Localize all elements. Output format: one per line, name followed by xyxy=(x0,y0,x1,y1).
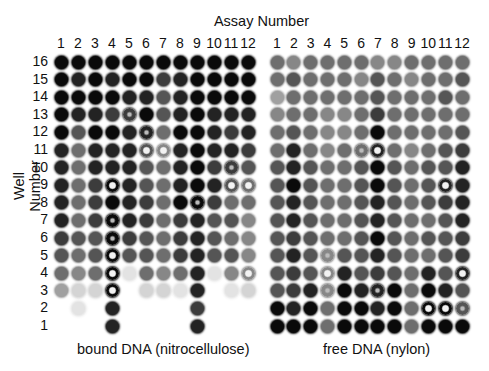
blot-spot xyxy=(405,214,418,227)
blot-spot xyxy=(456,214,469,227)
blot-spot xyxy=(371,161,384,174)
blot-spot xyxy=(287,249,300,262)
blot-spot xyxy=(405,161,418,174)
blot-spot xyxy=(271,249,284,262)
blot-spot xyxy=(422,161,435,174)
blot-spot xyxy=(271,214,284,227)
blot-spot xyxy=(439,161,452,174)
blot-spot xyxy=(388,91,401,104)
blot-spot xyxy=(287,161,300,174)
blot-spot xyxy=(321,56,334,69)
blot-spot xyxy=(271,232,284,245)
blot-spot xyxy=(422,284,435,297)
dot-blot-panel-free xyxy=(0,0,489,371)
blot-spot xyxy=(355,144,368,157)
blot-spot xyxy=(456,73,469,86)
blot-spot xyxy=(355,161,368,174)
blot-spot xyxy=(355,91,368,104)
blot-spot xyxy=(371,91,384,104)
blot-spot xyxy=(405,267,418,280)
blot-spot xyxy=(405,73,418,86)
blot-spot xyxy=(287,126,300,139)
blot-spot xyxy=(422,179,435,192)
blot-spot xyxy=(388,302,401,315)
blot-spot xyxy=(355,267,368,280)
blot-spot xyxy=(388,56,401,69)
blot-spot xyxy=(287,73,300,86)
blot-spot xyxy=(456,196,469,209)
blot-spot xyxy=(388,144,401,157)
blot-spot xyxy=(271,196,284,209)
blot-spot xyxy=(338,126,351,139)
blot-spot xyxy=(321,91,334,104)
blot-spot xyxy=(371,196,384,209)
blot-spot xyxy=(321,196,334,209)
blot-spot xyxy=(388,249,401,262)
blot-spot xyxy=(287,144,300,157)
blot-spot xyxy=(304,108,317,121)
blot-spot xyxy=(456,232,469,245)
blot-spot xyxy=(422,267,435,280)
blot-spot xyxy=(338,73,351,86)
blot-spot xyxy=(321,126,334,139)
blot-spot xyxy=(271,161,284,174)
blot-spot xyxy=(439,196,452,209)
blot-spot xyxy=(439,73,452,86)
blot-spot xyxy=(371,284,384,297)
blot-spot xyxy=(422,91,435,104)
blot-spot xyxy=(422,144,435,157)
blot-spot xyxy=(439,302,452,315)
blot-spot xyxy=(388,214,401,227)
blot-spot xyxy=(338,108,351,121)
blot-spot xyxy=(405,232,418,245)
blot-spot xyxy=(439,126,452,139)
blot-spot xyxy=(405,91,418,104)
blot-spot xyxy=(371,179,384,192)
blot-spot xyxy=(355,249,368,262)
blot-spot xyxy=(321,73,334,86)
blot-spot xyxy=(388,126,401,139)
blot-spot xyxy=(271,91,284,104)
blot-spot xyxy=(371,232,384,245)
blot-spot xyxy=(321,144,334,157)
blot-spot xyxy=(456,56,469,69)
blot-spot xyxy=(338,161,351,174)
blot-spot xyxy=(456,161,469,174)
caption-free-dna: free DNA (nylon) xyxy=(323,341,430,357)
blot-spot xyxy=(271,302,284,315)
blot-spot xyxy=(287,267,300,280)
blot-spot xyxy=(304,91,317,104)
blot-spot xyxy=(456,126,469,139)
blot-spot xyxy=(439,249,452,262)
blot-spot xyxy=(321,161,334,174)
blot-spot xyxy=(355,56,368,69)
blot-spot xyxy=(439,232,452,245)
blot-spot xyxy=(287,302,300,315)
blot-spot xyxy=(439,267,452,280)
blot-spot xyxy=(371,320,384,333)
blot-spot xyxy=(271,267,284,280)
blot-spot xyxy=(321,302,334,315)
blot-spot xyxy=(304,73,317,86)
blot-spot xyxy=(371,267,384,280)
blot-spot xyxy=(355,232,368,245)
blot-spot xyxy=(439,56,452,69)
blot-spot xyxy=(388,267,401,280)
blot-spot xyxy=(338,267,351,280)
blot-spot xyxy=(338,214,351,227)
blot-spot xyxy=(439,108,452,121)
blot-spot xyxy=(304,249,317,262)
blot-spot xyxy=(456,267,469,280)
blot-spot xyxy=(439,214,452,227)
blot-spot xyxy=(456,284,469,297)
blot-spot xyxy=(422,232,435,245)
blot-spot xyxy=(304,126,317,139)
blot-spot xyxy=(271,144,284,157)
blot-spot xyxy=(304,196,317,209)
blot-spot xyxy=(422,302,435,315)
blot-spot xyxy=(338,284,351,297)
blot-spot xyxy=(355,108,368,121)
blot-spot xyxy=(287,179,300,192)
blot-spot xyxy=(321,232,334,245)
blot-spot xyxy=(304,144,317,157)
